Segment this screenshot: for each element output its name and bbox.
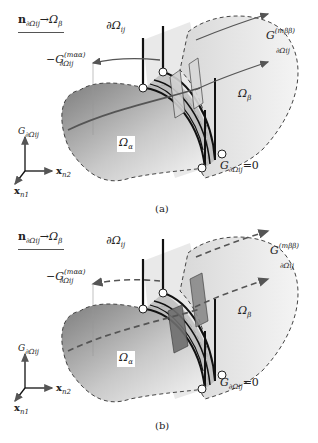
axis-label-horizontal: xn2	[56, 166, 71, 179]
interface-label: ∂Ωij	[106, 20, 125, 34]
legend-divider	[18, 249, 64, 250]
domain-alpha-label: Ωα	[117, 136, 135, 152]
zero-flux-label: G∂Ωij=0	[220, 160, 259, 174]
axis-label-vertical: G∂Ωij	[18, 344, 39, 356]
normal-vector-label: n∂Ωij→Ωβ	[18, 231, 62, 245]
normal-vector-label: n∂Ωij→Ωβ	[18, 14, 62, 28]
panel-b: n∂Ωij→Ωβ ∂Ωij −G(mαα)∂Ωij G(mββ)∂Ωij Ωβ …	[0, 221, 318, 442]
domain-beta-label: Ωβ	[238, 305, 251, 319]
legend-divider	[18, 32, 64, 33]
positive-flux-label: G(mββ)∂Ωij	[266, 28, 295, 55]
axis-label-diagonal: xn1	[14, 403, 29, 416]
panel-caption-a: (a)	[155, 203, 169, 214]
domain-beta-label: Ωβ	[238, 88, 251, 102]
panel-a: n∂Ωij→Ωβ ∂Ωij −G(mαα)∂Ωij G(mββ)∂Ωij Ωβ …	[0, 0, 318, 221]
interface-label: ∂Ωij	[106, 235, 125, 249]
zero-flux-label: G∂Ωij=0	[220, 377, 259, 391]
negative-flux-label: −G(mαα)∂Ωij	[46, 52, 73, 68]
axis-label-diagonal: xn1	[14, 186, 29, 199]
panel-caption-b: (b)	[155, 420, 169, 431]
domain-alpha-label: Ωα	[117, 351, 135, 367]
negative-flux-label: −G(mαα)∂Ωij	[46, 269, 73, 285]
axis-label-horizontal: xn2	[56, 383, 71, 396]
axis-label-vertical: G∂Ωij	[18, 127, 39, 139]
positive-flux-label: G(mββ)∂Ωij	[270, 243, 299, 270]
